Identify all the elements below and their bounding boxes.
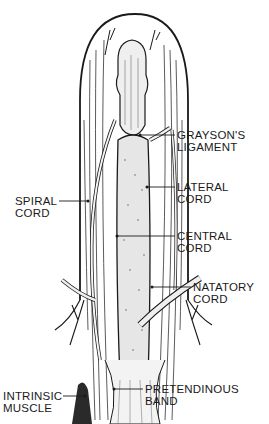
label-line: PRETENDINOUS xyxy=(145,383,239,395)
diagram-canvas: GRAYSON'S LIGAMENT LATERAL CORD SPIRAL C… xyxy=(0,0,269,424)
label-lateral-cord: LATERAL CORD xyxy=(177,181,229,205)
label-natatory-cord: NATATORY CORD xyxy=(193,281,254,305)
label-line: LATERAL xyxy=(177,181,229,193)
label-central-cord: CENTRAL CORD xyxy=(177,230,232,254)
label-intrinsic-muscle: INTRINSIC MUSCLE xyxy=(3,390,62,414)
label-line: CORD xyxy=(177,193,229,205)
label-line: MUSCLE xyxy=(3,402,62,414)
label-graysons-ligament: GRAYSON'S LIGAMENT xyxy=(177,129,245,153)
label-line: GRAYSON'S xyxy=(177,129,245,141)
label-line: INTRINSIC xyxy=(3,390,62,402)
label-line: CORD xyxy=(193,293,254,305)
label-line: LIGAMENT xyxy=(177,141,245,153)
label-line: CORD xyxy=(177,242,232,254)
label-spiral-cord: SPIRAL CORD xyxy=(15,195,57,219)
label-line: CORD xyxy=(15,207,57,219)
label-line: CENTRAL xyxy=(177,230,232,242)
label-pretendinous-band: PRETENDINOUS BAND xyxy=(145,383,239,407)
label-line: NATATORY xyxy=(193,281,254,293)
central-cord-shape xyxy=(117,135,150,380)
label-line: SPIRAL xyxy=(15,195,57,207)
intrinsic-muscle-shape xyxy=(72,382,92,424)
label-line: BAND xyxy=(145,395,239,407)
